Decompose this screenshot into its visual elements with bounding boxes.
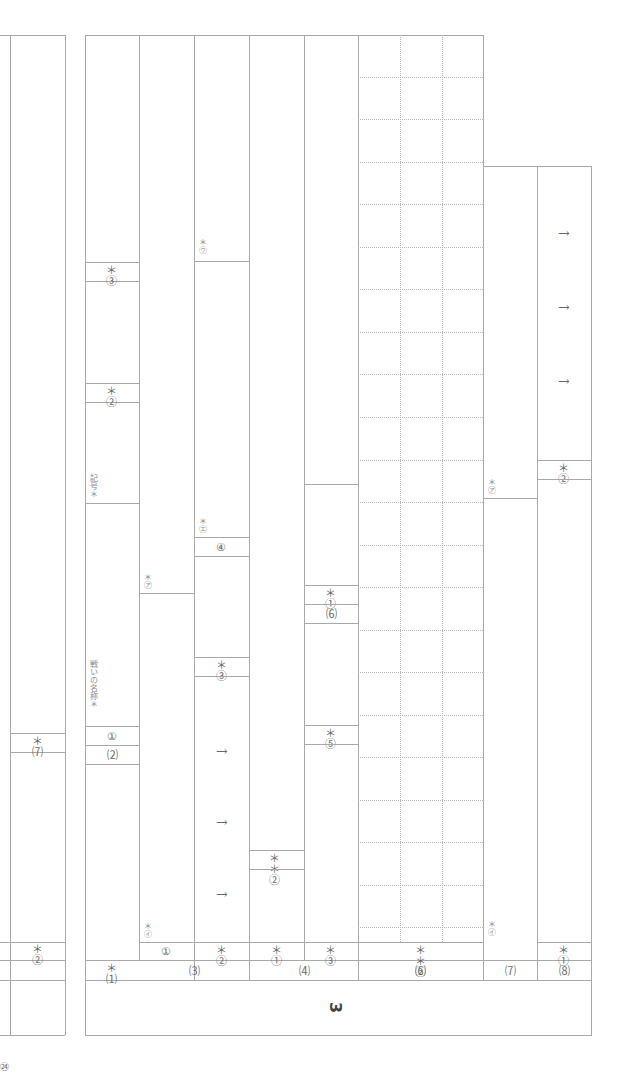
c5-line-f (304, 744, 358, 745)
box-left-border (85, 35, 86, 1035)
page-number: ㉔ (0, 1060, 9, 1073)
group-8-label: ⑻ (558, 962, 569, 978)
c1-line-f (85, 726, 139, 727)
grid-row-line (358, 417, 483, 418)
box-top-border (85, 35, 484, 36)
c3-line-e (194, 676, 249, 677)
grid-row-line (358, 204, 483, 205)
grid-row-line (358, 502, 483, 503)
c1-symbol-label: 記号＊ (88, 474, 96, 498)
c3-line-c (194, 556, 249, 557)
grid-row-line (358, 460, 483, 461)
grid-row-line (358, 332, 483, 333)
left-divider (10, 35, 11, 1035)
group-3-label: ⑶ (188, 962, 199, 978)
grid-row-line (358, 545, 483, 546)
group-4-label: ⑷ (298, 962, 309, 978)
c3-line-b (194, 537, 249, 538)
c1-q3-label: ＊③ (105, 264, 116, 280)
left-q7-top (10, 733, 65, 734)
grid-row-line (358, 119, 483, 120)
arrow-icon: → (558, 374, 570, 388)
c3-item4-label: ④ (215, 539, 226, 555)
col-divider-7 (537, 166, 538, 980)
col-divider-2 (194, 35, 195, 980)
col-divider-6 (483, 35, 484, 980)
c6-header-q2: ＊＊② (414, 944, 425, 958)
grid-row-line (358, 927, 483, 928)
left-q2-label: ＊② (31, 943, 42, 959)
c5-item1-label: ＊① (324, 587, 335, 603)
c4-header-item1: ＊① (270, 944, 281, 958)
c8-line-b (537, 479, 591, 480)
c3-e-label: ＊㋓ (197, 517, 205, 533)
left-right-border (65, 35, 66, 1035)
arrow-icon: → (558, 226, 570, 240)
group-7-label: ⑺ (504, 962, 515, 978)
c3-line-a (194, 261, 249, 262)
c1-battle-name-label: 戦いの名称＊ (88, 660, 96, 708)
col-divider-3 (249, 35, 250, 980)
row-line-items-a (139, 942, 359, 943)
c3-line-d (194, 657, 249, 658)
box-bottom-border (85, 1035, 592, 1036)
grid-col-line-2 (442, 35, 443, 942)
c5-line-a (304, 484, 358, 485)
c4-q2-label: ＊＊② (268, 852, 279, 868)
grid-row-line (358, 587, 483, 588)
grid-row-line (358, 289, 483, 290)
grid-row-line (358, 715, 483, 716)
box-right-border (591, 166, 592, 1035)
c5-q6-label: ⑹ (325, 606, 336, 620)
col-divider-4 (304, 35, 305, 960)
col-divider-5 (358, 35, 359, 980)
c5-line-c (304, 604, 358, 605)
c1-q2-paren-label: ⑵ (106, 747, 117, 761)
c7-a-label: ＊㋐ (486, 478, 494, 494)
c4-line-a (249, 850, 304, 851)
c3-q3-label: ＊③ (215, 659, 226, 675)
left-q7-label: ＊⑺ (31, 735, 42, 751)
arrow-icon: → (216, 815, 228, 829)
c1-line-a (85, 262, 139, 263)
c8-line-a (537, 460, 591, 461)
c1-line-e (85, 503, 139, 504)
c5-line-e (304, 725, 358, 726)
grid-row-line (358, 842, 483, 843)
c1-q2-label: ＊② (105, 385, 116, 401)
c5-line-d (304, 623, 358, 624)
row-line-items-b (537, 942, 591, 943)
c5-q5-label: ＊⑤ (324, 727, 335, 743)
c1-line-c (85, 383, 139, 384)
arrow-icon: → (558, 300, 570, 314)
c2-a-label: ＊㋐ (142, 573, 150, 589)
c2-i-label: ＊㋑ (142, 922, 150, 938)
c1-line-h (85, 764, 139, 765)
arrow-icon: → (216, 887, 228, 901)
group-6-label: ⑹ (414, 962, 425, 978)
grid-row-line (358, 800, 483, 801)
row-line-section (85, 980, 592, 981)
c8-q2-label: ＊② (557, 462, 568, 478)
grid-row-line (358, 757, 483, 758)
c1-line-g (85, 745, 139, 746)
grid-col-line-1 (400, 35, 401, 942)
arrow-icon: → (216, 744, 228, 758)
grid-row-line (358, 374, 483, 375)
c2-line-a (139, 593, 194, 594)
c8-header-item1: ＊① (557, 944, 568, 958)
grid-row-line (358, 247, 483, 248)
section-number: 3 (326, 1002, 345, 1013)
left-row-line (0, 980, 65, 981)
c4-line-b (249, 869, 304, 870)
grid-row-line (358, 672, 483, 673)
c3-u-label: ＊㋒ (197, 238, 205, 254)
left-bottom-border (0, 1035, 65, 1036)
group-1-label: ＊⑴ (105, 962, 116, 978)
grid-row-line (358, 885, 483, 886)
row-line-groups (85, 960, 592, 961)
c7-i-label: ＊㋑ (486, 920, 494, 936)
grid-row-line (358, 162, 483, 163)
row-line-items-grid (358, 942, 483, 943)
c5-line-b (304, 585, 358, 586)
